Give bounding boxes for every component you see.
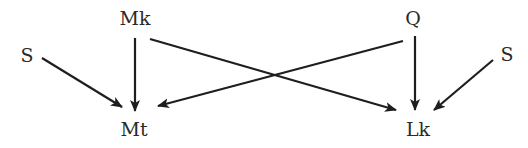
edge-q-to-mt	[158, 41, 403, 106]
diagram-canvas: S Mk Mt Q S Lk	[0, 0, 528, 148]
edges-layer	[0, 0, 528, 148]
node-mk: Mk	[120, 9, 151, 28]
edge-s-left-to-mt	[42, 58, 122, 107]
edge-s-right-to-lk	[434, 60, 493, 110]
node-lk: Lk	[406, 120, 430, 139]
node-s-left: S	[20, 46, 33, 65]
node-s-right: S	[500, 45, 513, 64]
node-q: Q	[405, 9, 421, 28]
node-mt: Mt	[120, 120, 147, 139]
